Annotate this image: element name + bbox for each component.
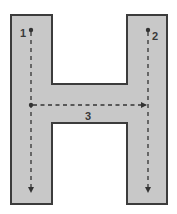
stroke-2-start-dot [146,28,150,32]
stroke-2-label: 2 [152,30,158,42]
stroke-3-label: 3 [85,110,91,122]
letter-h-diagram: 1 2 3 [0,0,177,214]
stroke-3-start-dot [29,103,33,107]
stroke-1-start-dot [29,28,33,32]
stroke-1-label: 1 [20,27,26,39]
